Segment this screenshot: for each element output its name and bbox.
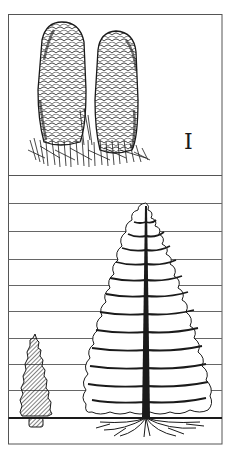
cone-left — [38, 22, 86, 145]
illustration: I — [0, 0, 232, 455]
panel-label: I — [184, 129, 193, 154]
pot — [29, 418, 43, 427]
